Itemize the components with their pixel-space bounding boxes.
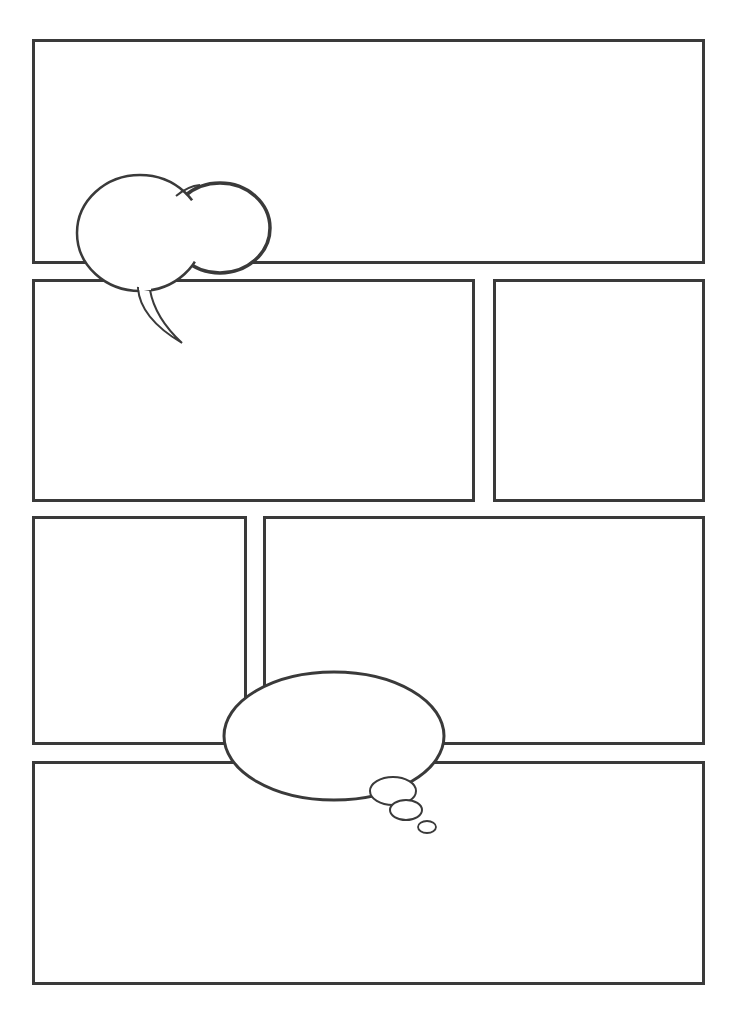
comic-page	[0, 0, 747, 1031]
speech-bubble	[77, 175, 270, 343]
thought-bubble	[224, 672, 444, 833]
